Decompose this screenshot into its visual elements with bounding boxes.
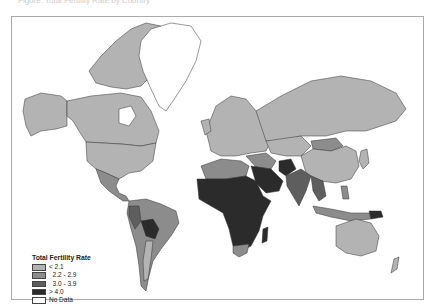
region-indonesia <box>313 206 371 221</box>
region-alaska <box>23 93 67 136</box>
legend-label: < 2.1 <box>49 263 64 271</box>
figure-caption: Figure: Total Fertility Rate by Country <box>18 0 150 5</box>
region-canada <box>67 93 159 146</box>
legend-item-mid: 2.2 - 2.9 <box>32 272 91 280</box>
legend-swatch <box>32 297 46 304</box>
region-north-africa <box>201 159 249 179</box>
legend-label: No Data <box>49 296 73 304</box>
region-japan <box>359 149 369 169</box>
legend-title: Total Fertility Rate <box>32 254 91 262</box>
region-new-zealand <box>391 257 399 273</box>
region-greenland <box>139 23 201 111</box>
legend-swatch <box>32 289 46 296</box>
legend-swatch <box>32 264 46 271</box>
region-india <box>286 169 311 206</box>
legend-swatch <box>32 281 46 288</box>
region-usa <box>86 142 156 179</box>
region-south-africa <box>233 244 249 257</box>
legend-item-very-high: > 4.0 <box>32 288 91 296</box>
region-madagascar <box>262 227 268 243</box>
legend-swatch <box>32 272 46 279</box>
region-middle-east <box>246 153 276 169</box>
map-frame: Total Fertility Rate < 2.1 2.2 - 2.9 3.0… <box>11 16 424 300</box>
legend-label: 2.2 - 2.9 <box>49 271 76 279</box>
region-australia <box>336 219 379 256</box>
region-russia <box>256 76 406 141</box>
region-papua <box>369 211 383 219</box>
region-philippines <box>341 186 349 199</box>
legend-item-high: 3.0 - 3.9 <box>32 280 91 288</box>
legend-item-no-data: No Data <box>32 296 91 304</box>
legend-label: > 4.0 <box>49 288 64 296</box>
map-legend: Total Fertility Rate < 2.1 2.2 - 2.9 3.0… <box>32 254 91 304</box>
legend-item-low: < 2.1 <box>32 263 91 271</box>
legend-label: 3.0 - 3.9 <box>49 280 76 288</box>
